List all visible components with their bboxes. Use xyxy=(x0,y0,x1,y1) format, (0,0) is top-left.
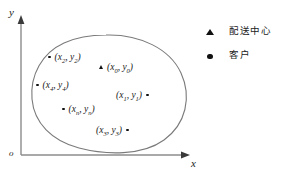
point-x3-y3: (x3, y3) xyxy=(96,126,129,137)
point-x2-y2: (x2, y2) xyxy=(48,53,81,64)
coordinate-label: (x2, y2) xyxy=(55,52,81,62)
dot-marker-icon xyxy=(62,108,65,111)
legend-customer-label: 客户 xyxy=(221,47,250,61)
point-x0-y0: (x0, y0) xyxy=(99,63,133,74)
dot-marker-icon xyxy=(36,84,39,87)
point-x4-y4: (x4, y4) xyxy=(36,81,69,92)
point-x1-y1: (x1, y1) xyxy=(116,91,149,102)
coordinate-diagram: y x o (x2, y2)(x0, y0)(x4, y4)(x1, y1)(x… xyxy=(0,0,281,181)
legend-depot-label: 配送中心 xyxy=(221,23,271,37)
coordinate-label: (x0, y0) xyxy=(107,62,133,72)
coordinate-label: (x1, y1) xyxy=(116,90,142,100)
coordinate-label: (x4, y4) xyxy=(43,80,69,90)
coordinate-label: (xn, yn) xyxy=(69,104,95,114)
legend-depot: 配送中心 xyxy=(199,18,279,42)
dot-marker-icon xyxy=(126,129,129,132)
legend: 配送中心客户 xyxy=(199,18,279,66)
circle-marker-icon xyxy=(199,45,221,63)
origin-label: o xyxy=(9,148,14,158)
triangle-marker-icon xyxy=(99,65,103,69)
dot-marker-icon xyxy=(146,94,149,97)
x-axis-label: x xyxy=(191,157,196,169)
y-axis-label: y xyxy=(9,6,14,18)
circle-marker-shape xyxy=(207,54,213,60)
triangle-marker-shape xyxy=(206,29,214,35)
dot-marker-icon xyxy=(48,56,51,59)
triangle-marker-icon xyxy=(199,21,221,39)
coordinate-label: (x3, y3) xyxy=(96,125,122,135)
point-xn-yn: (xn, yn) xyxy=(62,105,95,116)
legend-customer: 客户 xyxy=(199,42,279,66)
